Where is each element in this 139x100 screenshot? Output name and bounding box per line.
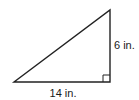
triangle-outline xyxy=(14,10,110,82)
base-length-label: 14 in. xyxy=(50,87,77,99)
height-length-label: 6 in. xyxy=(114,39,135,51)
right-angle-marker xyxy=(103,75,110,82)
right-triangle-diagram: 14 in. 6 in. xyxy=(0,0,139,100)
